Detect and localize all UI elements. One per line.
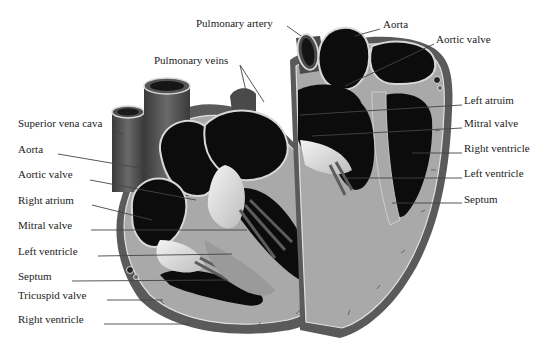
label-left-ventricle-right: Left ventricle (464, 167, 524, 179)
label-pulmonary-artery: Pulmonary artery (196, 17, 273, 29)
pulmonary-vein-stub (230, 88, 256, 112)
label-left-ventricle: Left ventricle (18, 245, 78, 257)
label-left-atrium: Left atruim (464, 94, 514, 106)
label-aortic-valve: Aortic valve (18, 168, 73, 180)
label-tricuspid-valve: Tricuspid valve (18, 289, 86, 301)
label-right-atrium: Right atrium (18, 194, 74, 206)
label-aorta: Aorta (18, 143, 43, 155)
label-septum-right: Septum (464, 193, 498, 205)
label-right-ventricle-right: Right ventricle (464, 142, 530, 154)
label-pulmonary-veins: Pulmonary veins (154, 54, 228, 66)
back-aorta-chamber (319, 28, 370, 90)
label-right-ventricle: Right ventricle (18, 313, 84, 325)
label-aorta-right: Aorta (383, 18, 408, 30)
label-superior-vena-cava: Superior vena cava (18, 117, 102, 129)
label-mitral-valve-right: Mitral valve (464, 117, 518, 129)
label-mitral-valve: Mitral valve (18, 219, 72, 231)
label-septum: Septum (18, 270, 52, 282)
superior-vena-cava-vessel (112, 106, 144, 192)
back-heart (290, 28, 453, 338)
label-aortic-valve-right: Aortic valve (436, 33, 491, 45)
